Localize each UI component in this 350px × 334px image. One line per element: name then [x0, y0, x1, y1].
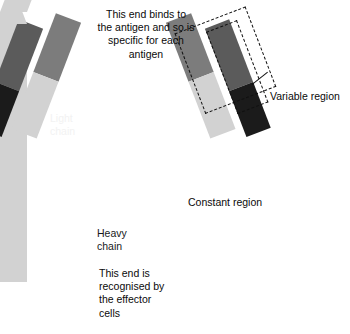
right-heavy-chain-stem — [0, 153, 27, 282]
left-stem-bend — [0, 0, 32, 12]
antigen-binding-caption: This end binds to the antigen and so is … — [84, 8, 208, 61]
antibody-diagram: This end binds to the antigen and so is … — [0, 0, 350, 334]
right-stem-bend — [0, 12, 27, 24]
variable-region-label: Variable region — [270, 90, 350, 103]
left-heavy-chain-variable-segment — [33, 13, 81, 82]
light-chain-label: Light chain — [50, 112, 96, 137]
constant-region-label: Constant region — [188, 196, 288, 209]
effector-cell-caption: This end is recognised by the effector c… — [99, 267, 209, 320]
heavy-chain-label: Heavy chain — [97, 227, 143, 252]
